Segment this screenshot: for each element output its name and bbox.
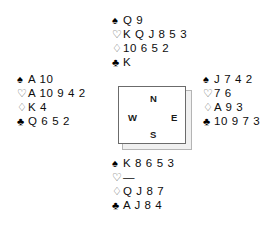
heart-icon: ♡ xyxy=(112,27,123,41)
compass-label-south: S xyxy=(150,130,156,140)
west-spades-ranks: A 10 xyxy=(28,72,53,86)
west-clubs-ranks: Q 6 5 2 xyxy=(28,114,70,128)
west-spades-line: ♠ A 10 xyxy=(17,72,86,86)
hand-south: ♠ K 8 6 5 3 ♡ — ♢ Q J 8 7 ♣ A J 8 4 xyxy=(112,156,174,212)
west-hearts-line: ♡ A 10 9 4 2 xyxy=(17,86,86,100)
north-spades-line: ♠ Q 9 xyxy=(112,13,187,27)
compass-label-north: N xyxy=(150,94,157,104)
west-diamonds-line: ♢ K 4 xyxy=(17,100,86,114)
south-spades-ranks: K 8 6 5 3 xyxy=(123,156,174,170)
spade-icon: ♠ xyxy=(112,156,123,170)
compass-box: N W E S xyxy=(118,86,186,144)
north-diamonds-line: ♢ 10 6 5 2 xyxy=(112,41,187,55)
hand-west: ♠ A 10 ♡ A 10 9 4 2 ♢ K 4 ♣ Q 6 5 2 xyxy=(17,72,86,128)
east-hearts-ranks: 7 6 xyxy=(214,86,232,100)
north-diamonds-ranks: 10 6 5 2 xyxy=(123,41,169,55)
diamond-icon: ♢ xyxy=(203,100,214,114)
east-spades-ranks: J 7 4 2 xyxy=(214,72,253,86)
west-clubs-line: ♣ Q 6 5 2 xyxy=(17,114,86,128)
south-clubs-ranks: A J 8 4 xyxy=(123,198,162,212)
hand-north: ♠ Q 9 ♡ K Q J 8 5 3 ♢ 10 6 5 2 ♣ K xyxy=(112,13,187,69)
club-icon: ♣ xyxy=(112,198,123,212)
north-clubs-ranks: K xyxy=(123,55,131,69)
heart-icon: ♡ xyxy=(203,86,214,100)
north-spades-ranks: Q 9 xyxy=(123,13,143,27)
north-hearts-line: ♡ K Q J 8 5 3 xyxy=(112,27,187,41)
east-hearts-line: ♡ 7 6 xyxy=(203,86,260,100)
diamond-icon: ♢ xyxy=(112,41,123,55)
club-icon: ♣ xyxy=(17,114,28,128)
heart-icon: ♡ xyxy=(112,170,123,184)
compass-label-east: E xyxy=(171,113,177,123)
south-spades-line: ♠ K 8 6 5 3 xyxy=(112,156,174,170)
bridge-deal-diagram: ♠ Q 9 ♡ K Q J 8 5 3 ♢ 10 6 5 2 ♣ K ♠ A 1… xyxy=(0,0,271,235)
east-clubs-line: ♣ 10 9 7 3 xyxy=(203,114,260,128)
diamond-icon: ♢ xyxy=(112,184,123,198)
north-hearts-ranks: K Q J 8 5 3 xyxy=(123,27,187,41)
spade-icon: ♠ xyxy=(203,72,214,86)
east-clubs-ranks: 10 9 7 3 xyxy=(214,114,260,128)
north-clubs-line: ♣ K xyxy=(112,55,187,69)
compass-box-frame: N W E S xyxy=(118,86,186,144)
south-diamonds-ranks: Q J 8 7 xyxy=(123,184,164,198)
south-hearts-ranks: — xyxy=(123,170,135,184)
east-spades-line: ♠ J 7 4 2 xyxy=(203,72,260,86)
east-diamonds-ranks: A 9 3 xyxy=(214,100,243,114)
hand-east: ♠ J 7 4 2 ♡ 7 6 ♢ A 9 3 ♣ 10 9 7 3 xyxy=(203,72,260,128)
spade-icon: ♠ xyxy=(112,13,123,27)
east-diamonds-line: ♢ A 9 3 xyxy=(203,100,260,114)
diamond-icon: ♢ xyxy=(17,100,28,114)
heart-icon: ♡ xyxy=(17,86,28,100)
club-icon: ♣ xyxy=(203,114,214,128)
west-diamonds-ranks: K 4 xyxy=(28,100,47,114)
compass-label-west: W xyxy=(128,113,137,123)
south-diamonds-line: ♢ Q J 8 7 xyxy=(112,184,174,198)
south-clubs-line: ♣ A J 8 4 xyxy=(112,198,174,212)
west-hearts-ranks: A 10 9 4 2 xyxy=(28,86,86,100)
south-hearts-line: ♡ — xyxy=(112,170,174,184)
spade-icon: ♠ xyxy=(17,72,28,86)
club-icon: ♣ xyxy=(112,55,123,69)
